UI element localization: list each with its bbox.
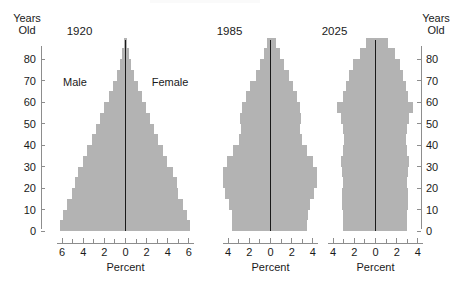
bar-female-5-9 [271,210,308,221]
panel-title-1985: 1985 [217,25,243,37]
panel-title-2025: 2025 [322,25,348,37]
y-axis-tick-label: 60 [426,96,438,108]
bar-female-85+ [271,38,276,49]
bars-female-1985 [271,38,318,231]
bar-female-35-39 [376,145,408,156]
bar-male-75-79 [353,59,375,70]
bar-female-40-44 [126,134,159,145]
pyramid-panel-1985: 42024Percent1985 [217,25,318,273]
bar-female-65-69 [271,81,293,92]
x-axis-tick-label: 0 [267,246,273,258]
bar-female-0-4 [126,220,190,231]
bar-male-40-44 [92,134,126,145]
bar-female-10-14 [271,199,310,210]
pyramid-panel-1920: 6420246Percent1920 [57,25,193,273]
y-axis-tick-label: 30 [426,161,438,173]
bar-male-10-14 [67,199,125,210]
y-axis-tick-label: 40 [426,139,438,151]
bar-female-5-9 [376,210,408,221]
bar-male-10-14 [229,199,270,210]
bar-male-20-24 [343,177,376,188]
bar-male-30-34 [341,156,376,167]
bar-male-25-29 [223,167,271,178]
bar-female-15-19 [126,188,179,199]
bar-male-15-19 [72,188,126,199]
y-axis-tick-label: 50 [24,118,36,130]
bar-female-30-34 [376,156,410,167]
x-axis-tick-label: 0 [122,246,128,258]
bar-male-50-54 [341,113,376,124]
bar-female-20-24 [126,177,178,188]
bar-male-60-64 [109,91,126,102]
x-axis-tick-label: 2 [289,246,295,258]
bar-male-0-4 [343,220,376,231]
x-axis-tick-label: 4 [80,246,86,258]
y-axis-tick-label: 70 [24,75,36,87]
bar-female-25-29 [126,167,174,178]
bar-male-80-84 [360,48,376,59]
x-axis-tick-label: 2 [144,246,150,258]
bar-female-85+ [376,38,389,49]
bar-male-50-54 [100,113,125,124]
bar-male-15-19 [342,188,376,199]
y-axis-tick-label: 20 [426,182,438,194]
x-axis-title-1985: Percent [252,261,290,273]
x-axis-tick-label: 6 [186,246,192,258]
y-axis-title-line2: Old [427,24,444,36]
bar-male-75-79 [120,59,125,70]
bar-male-75-79 [260,59,271,70]
bar-male-70-74 [117,70,126,81]
bar-male-60-64 [343,91,376,102]
bar-female-70-74 [376,70,404,81]
bar-male-35-39 [233,145,270,156]
bar-male-85+ [366,38,376,49]
chart-canvas: 01020304050607080YearsOld010203040506070… [0,0,461,286]
x-axis-title-1920: Percent [107,261,145,273]
bar-male-0-4 [60,220,126,231]
bar-female-5-9 [126,210,187,221]
bar-female-50-54 [376,113,410,124]
bar-female-50-54 [126,113,150,124]
bar-female-50-54 [271,113,302,124]
y-axis-tick-label: 0 [426,225,432,237]
y-axis-tick-label: 20 [24,182,36,194]
y-axis-title-line1: Years [422,12,450,24]
bar-female-25-29 [376,167,409,178]
bars-female-1920 [126,38,190,231]
bar-male-45-49 [96,124,126,135]
bar-female-75-79 [271,59,285,70]
y-axis-tick-label: 10 [24,204,36,216]
bar-female-70-74 [126,70,135,81]
y-axis-title-line2: Old [18,24,35,36]
bar-female-20-24 [376,177,408,188]
bars-male-1985 [223,38,271,231]
y-axis-left: 01020304050607080YearsOld [13,12,45,237]
y-axis-tick-label: 50 [426,118,438,130]
bar-male-30-34 [83,156,125,167]
bar-female-10-14 [376,199,409,210]
bar-male-55-59 [337,102,375,113]
bar-female-35-39 [271,145,307,156]
top-crop-artifact [150,0,260,3]
x-axis-tick-label: 4 [415,246,421,258]
bar-male-5-9 [343,210,376,221]
bar-female-70-74 [271,70,289,81]
y-axis-tick-label: 80 [24,53,36,65]
bar-female-45-49 [271,124,301,135]
y-axis-tick-label: 80 [426,53,438,65]
x-axis-tick-label: 6 [59,246,65,258]
bar-female-35-39 [126,145,163,156]
bars-female-2025 [376,38,413,231]
y-axis-title-line1: Years [13,12,41,24]
bar-male-30-34 [227,156,270,167]
bar-male-55-59 [242,102,271,113]
bar-female-15-19 [376,188,409,199]
x-axis-tick-label: 4 [225,246,231,258]
bar-male-65-69 [346,81,376,92]
bar-male-15-19 [225,188,271,199]
x-axis-title-2025: Percent [357,261,395,273]
x-axis-tick-label: 2 [246,246,252,258]
female-label: Female [152,76,189,88]
y-axis-tick-label: 30 [24,161,36,173]
y-axis-tick-label: 40 [24,139,36,151]
